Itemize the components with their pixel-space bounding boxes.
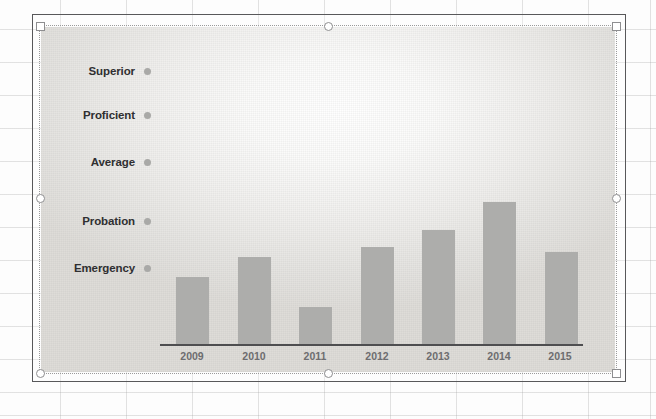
category-label: Emergency [74, 262, 135, 274]
category-marker-dot-icon [144, 68, 151, 75]
handle-bottom-right[interactable] [612, 369, 621, 378]
x-axis-tick-label: 2012 [365, 350, 388, 362]
category-marker-dot-icon [144, 159, 151, 166]
category-marker-dot-icon [144, 265, 151, 272]
screenshot-stage: SuperiorProficientAverageProbationEmerge… [0, 0, 656, 419]
x-axis-tick-label: 2011 [304, 350, 327, 362]
handle-middle-right[interactable] [612, 194, 621, 203]
category-label: Superior [89, 65, 136, 77]
bar-chart[interactable]: SuperiorProficientAverageProbationEmerge… [41, 27, 615, 372]
x-axis-tick-label: 2010 [242, 350, 265, 362]
category-label: Probation [82, 215, 135, 227]
x-axis-tick-label: 2014 [487, 350, 510, 362]
x-axis-tick-label: 2015 [548, 350, 571, 362]
category-label: Average [91, 156, 135, 168]
handle-bottom-left[interactable] [36, 369, 45, 378]
bar-2015[interactable] [545, 252, 578, 345]
handle-top-right[interactable] [612, 22, 621, 31]
bar-2011[interactable] [299, 307, 332, 345]
bar-2009[interactable] [176, 277, 209, 345]
category-legend-row: Superior [41, 65, 151, 77]
bar-2012[interactable] [361, 247, 394, 345]
category-label: Proficient [83, 109, 135, 121]
handle-top-left[interactable] [36, 22, 45, 31]
x-axis-line [160, 344, 583, 346]
bar-2010[interactable] [238, 257, 271, 345]
category-marker-dot-icon [144, 218, 151, 225]
category-legend-row: Proficient [41, 109, 151, 121]
handle-bottom-center[interactable] [324, 369, 333, 378]
category-legend-row: Average [41, 156, 151, 168]
category-legend-row: Emergency [41, 262, 151, 274]
x-axis-tick-label: 2013 [426, 350, 449, 362]
category-marker-dot-icon [144, 112, 151, 119]
category-legend-row: Probation [41, 215, 151, 227]
handle-middle-left[interactable] [36, 194, 45, 203]
bar-2014[interactable] [483, 202, 516, 345]
x-axis-tick-label: 2009 [180, 350, 203, 362]
handle-top-center[interactable] [324, 22, 333, 31]
bar-2013[interactable] [422, 230, 455, 345]
